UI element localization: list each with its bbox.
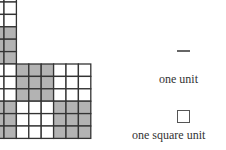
grid-cell bbox=[4, 114, 16, 126]
grid-cell bbox=[4, 89, 16, 101]
grid-cell bbox=[78, 101, 90, 113]
grid-cell bbox=[4, 76, 16, 88]
grid-cell bbox=[54, 89, 66, 101]
grid-cells bbox=[0, 0, 91, 138]
grid-cell bbox=[4, 126, 16, 138]
grid-cell bbox=[66, 126, 78, 138]
grid-cell bbox=[29, 126, 41, 138]
grid-cell bbox=[41, 64, 53, 76]
grid-cell bbox=[4, 64, 16, 76]
grid-cell bbox=[16, 114, 28, 126]
grid-cell bbox=[29, 64, 41, 76]
grid-cell bbox=[78, 76, 90, 88]
grid-cell bbox=[4, 14, 16, 26]
grid-cell bbox=[4, 101, 16, 113]
grid-cell bbox=[4, 27, 16, 39]
grid-cell bbox=[29, 101, 41, 113]
grid-cell bbox=[41, 89, 53, 101]
grid-cell bbox=[66, 114, 78, 126]
grid-cell bbox=[78, 64, 90, 76]
grid-cell bbox=[41, 126, 53, 138]
one-unit-label: one unit bbox=[159, 72, 198, 87]
grid-cell bbox=[16, 64, 28, 76]
grid-cell bbox=[29, 114, 41, 126]
grid-cell bbox=[4, 39, 16, 51]
grid-cell bbox=[54, 76, 66, 88]
grid-cell bbox=[41, 101, 53, 113]
grid-cell bbox=[66, 76, 78, 88]
grid-cell bbox=[66, 64, 78, 76]
grid-cell bbox=[41, 114, 53, 126]
one-square-unit-label: one square unit bbox=[132, 128, 205, 143]
one-square-unit-icon bbox=[177, 110, 190, 123]
grid-cell bbox=[16, 126, 28, 138]
grid-cell bbox=[16, 89, 28, 101]
grid-cell bbox=[66, 101, 78, 113]
grid-cell bbox=[29, 89, 41, 101]
one-unit-line bbox=[177, 50, 190, 52]
grid-cell bbox=[78, 89, 90, 101]
grid-cell bbox=[4, 52, 16, 64]
grid-cell bbox=[54, 101, 66, 113]
grid-cell bbox=[29, 76, 41, 88]
grid-cell bbox=[78, 126, 90, 138]
grid-cell bbox=[78, 114, 90, 126]
grid-cell bbox=[16, 76, 28, 88]
grid-cell bbox=[41, 76, 53, 88]
grid-cell bbox=[54, 114, 66, 126]
grid-cell bbox=[54, 64, 66, 76]
grid-cell bbox=[66, 89, 78, 101]
grid-cell bbox=[16, 101, 28, 113]
grid-cell bbox=[54, 126, 66, 138]
grid-cell bbox=[4, 2, 16, 14]
